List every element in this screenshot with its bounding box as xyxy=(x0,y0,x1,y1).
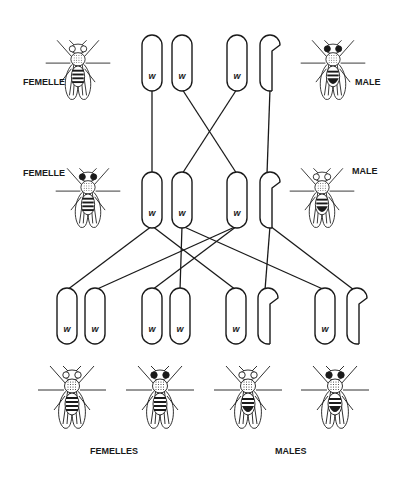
inheritance-line xyxy=(95,226,237,290)
inheritance-line xyxy=(265,226,270,290)
allele-label: w xyxy=(148,324,156,334)
label-offspring-males: MALES xyxy=(275,446,307,456)
allele-label: w xyxy=(233,71,241,81)
allele-label: w xyxy=(176,324,184,334)
female-fly-icon xyxy=(46,40,111,99)
label-parent-female: FEMELLE xyxy=(23,77,65,87)
allele-label: w xyxy=(63,324,71,334)
male-fly-icon xyxy=(214,366,282,428)
genetics-diagram: wwwwwwwwwwww xyxy=(0,0,403,480)
allele-label: w xyxy=(178,208,186,218)
x-chromosome: w xyxy=(142,288,162,344)
label-offspring-females: FEMELLES xyxy=(90,446,138,456)
inheritance-line xyxy=(180,226,182,290)
female-fly-icon xyxy=(38,366,106,428)
male-fly-icon xyxy=(301,366,369,428)
x-chromosome: w xyxy=(142,172,162,228)
allele-label: w xyxy=(148,208,156,218)
female-fly-icon xyxy=(126,366,194,428)
x-chromosome: w xyxy=(142,35,162,91)
inheritance-line xyxy=(67,226,152,290)
y-chromosome xyxy=(347,288,367,344)
y-chromosome xyxy=(260,35,280,91)
inheritance-line xyxy=(270,226,354,290)
x-chromosome: w xyxy=(227,172,247,228)
female-fly-icon xyxy=(56,168,121,227)
label-f1-male: MALE xyxy=(352,166,378,176)
x-chromosome: w xyxy=(57,288,77,344)
inheritance-line xyxy=(267,89,270,174)
label-parent-male: MALE xyxy=(355,77,381,87)
x-chromosome: w xyxy=(315,288,335,344)
allele-label: w xyxy=(233,208,241,218)
allele-label: w xyxy=(91,324,99,334)
allele-label: w xyxy=(148,71,156,81)
flies xyxy=(38,40,369,428)
x-chromosome: w xyxy=(172,172,192,228)
male-fly-icon xyxy=(301,40,366,99)
x-chromosome: w xyxy=(85,288,105,344)
x-chromosome: w xyxy=(227,35,247,91)
allele-label: w xyxy=(178,71,186,81)
label-f1-female: FEMELLE xyxy=(23,168,65,178)
male-fly-icon xyxy=(290,168,355,227)
inheritance-line xyxy=(182,226,325,290)
x-chromosome: w xyxy=(170,288,190,344)
x-chromosome: w xyxy=(172,35,192,91)
inheritance-lines xyxy=(67,89,354,290)
x-chromosome: w xyxy=(226,288,246,344)
allele-label: w xyxy=(232,324,240,334)
allele-label: w xyxy=(321,324,329,334)
y-chromosome xyxy=(258,288,278,344)
y-chromosome xyxy=(260,172,280,228)
